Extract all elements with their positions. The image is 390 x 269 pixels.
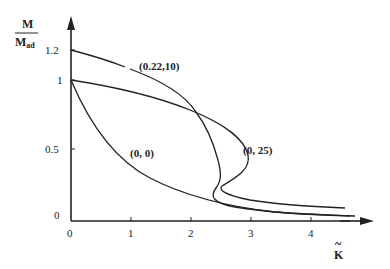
y-axis-label-denominator: Mad xyxy=(15,35,35,50)
curve-label-0-25: (0, 25) xyxy=(243,144,273,157)
curve-label-0.22-10: (0.22,10) xyxy=(139,60,180,73)
x-tick-3: 3 xyxy=(248,227,254,239)
y-tick-0.5: 0.5 xyxy=(45,143,59,155)
y-tick-1.2: 1.2 xyxy=(45,44,59,56)
x-tick-1: 1 xyxy=(128,227,134,239)
x-axis-arrow-icon xyxy=(360,217,374,225)
curve-0.22-10-start xyxy=(71,50,125,67)
x-axis-label-tilde: ~ xyxy=(335,237,342,251)
y-tick-0: 0 xyxy=(54,209,60,221)
y-axis-label-numerator: M xyxy=(22,17,33,31)
y-tick-1: 1 xyxy=(57,74,63,86)
curve-label-0-0: (0, 0) xyxy=(130,147,154,160)
y-axis-arrow-icon xyxy=(67,16,75,30)
chart: M Mad 0 1 2 3 4 0 0.5 1 1.2 K ~ (0.22,10… xyxy=(0,0,390,269)
x-tick-2: 2 xyxy=(188,227,194,239)
curve-0-25 xyxy=(71,80,345,208)
curve-0-0 xyxy=(71,80,350,216)
x-tick-0: 0 xyxy=(67,227,73,239)
x-tick-4: 4 xyxy=(308,227,314,239)
